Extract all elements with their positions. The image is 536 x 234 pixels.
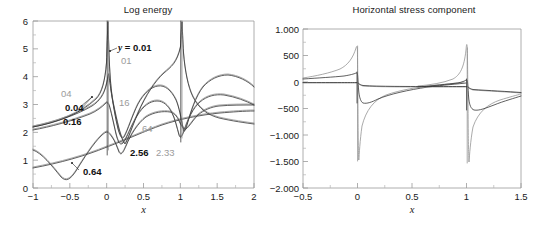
annotation-2-56: 2.56 xyxy=(130,148,149,158)
annotation-2-33: 2.33 xyxy=(156,148,175,158)
svg-text:−1: −1 xyxy=(28,191,39,202)
svg-text:6: 6 xyxy=(23,16,28,27)
y-tick-labels-right: 1.000 500 0 −500 −1.000 −1.500 −2.000 xyxy=(270,24,299,194)
annotation-16: 16 xyxy=(119,98,130,108)
horizontal-stress-plot: 1.000 500 0 −500 −1.000 −1.500 −2.000 −0… xyxy=(268,0,536,234)
y-axis-ticks-right xyxy=(303,29,308,188)
x-tick-labels: −1 −0.5 0 0.5 1 1.5 2 xyxy=(28,191,257,202)
svg-text:1: 1 xyxy=(178,191,183,202)
svg-text:−0.5: −0.5 xyxy=(294,191,313,202)
y-tick-labels: 0 1 2 3 4 5 6 xyxy=(23,16,28,194)
svg-text:4: 4 xyxy=(23,71,28,82)
svg-text:0: 0 xyxy=(104,191,109,202)
svg-text:2: 2 xyxy=(251,191,256,202)
panel-horizontal-stress: Horizontal stress component xyxy=(268,0,536,234)
svg-text:0.5: 0.5 xyxy=(405,191,418,202)
curve-stress-inner-left xyxy=(303,73,466,103)
svg-text:−500: −500 xyxy=(278,103,299,114)
svg-text:0.5: 0.5 xyxy=(137,191,150,202)
curve-stress-baseline xyxy=(303,83,521,93)
svg-text:2: 2 xyxy=(23,127,28,138)
annotation-04: 04 xyxy=(61,89,72,99)
svg-text:1.000: 1.000 xyxy=(275,24,299,35)
y-axis-ticks xyxy=(33,21,38,188)
log-energy-plot: 0 1 2 3 4 5 6 −1 −0.5 0 0.5 1 1.5 2 x xyxy=(0,0,268,234)
figure-container: Log energy xyxy=(0,0,536,234)
annotation-0-16: 0.16 xyxy=(63,117,82,127)
x-axis-ticks-right xyxy=(303,183,521,188)
x-axis-ticks xyxy=(33,183,254,188)
annotation-y-equals: y = 0.01 xyxy=(118,43,152,54)
annotation-64: 64 xyxy=(142,124,153,134)
svg-text:500: 500 xyxy=(283,50,299,61)
stress-singularity-lines xyxy=(357,46,467,163)
svg-text:1.5: 1.5 xyxy=(211,191,224,202)
annotation-0-04: 0.04 xyxy=(65,103,84,113)
svg-text:3: 3 xyxy=(23,99,28,110)
svg-text:−1.000: −1.000 xyxy=(270,130,299,141)
svg-text:5: 5 xyxy=(23,43,28,54)
svg-text:1: 1 xyxy=(23,155,28,166)
panel-log-energy: Log energy xyxy=(0,0,268,234)
curve-stress-spike-left xyxy=(303,47,464,160)
x-axis-label-right: x xyxy=(409,204,415,215)
x-axis-label-left: x xyxy=(140,204,146,215)
x-tick-labels-right: −0.5 0 0.5 1 1.5 xyxy=(294,191,528,202)
annotation-01: 01 xyxy=(121,56,132,66)
svg-text:1.5: 1.5 xyxy=(514,191,527,202)
svg-text:1: 1 xyxy=(464,191,469,202)
svg-text:0: 0 xyxy=(294,77,299,88)
svg-text:0: 0 xyxy=(355,191,360,202)
axes-frame-right xyxy=(303,29,521,188)
svg-text:−0.5: −0.5 xyxy=(60,191,79,202)
annotation-0-64: 0.64 xyxy=(83,167,102,177)
svg-text:−1.500: −1.500 xyxy=(270,156,299,167)
